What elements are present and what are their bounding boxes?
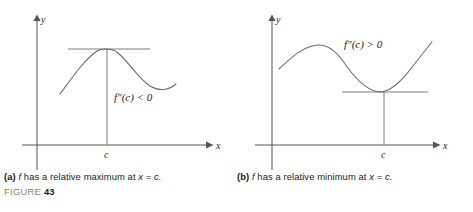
x-axis-label-b: x	[442, 140, 448, 151]
plot-b: x y c f″(c) > 0	[233, 0, 466, 170]
figure-panel-a: x y c f″(c) < 0 (a) f has a relative max…	[0, 0, 233, 212]
caption-tail-b: = c.	[374, 171, 392, 182]
annotation-second-derivative-b: f″(c) > 0	[344, 38, 383, 51]
plot-a: x y c f″(c) < 0	[0, 0, 233, 170]
y-axis-label-a: y	[40, 14, 46, 25]
figure-label-prefix: FIGURE	[4, 186, 41, 197]
y-axis-arrow-icon-a	[33, 15, 40, 22]
caption-text-a: has a relative maximum at	[21, 171, 138, 182]
x-axis-arrow-icon-b	[433, 141, 441, 148]
caption-a: (a) f has a relative maximum at x = c.	[4, 171, 230, 183]
curve-f-a	[60, 49, 176, 94]
figure-43: x y c f″(c) < 0 (a) f has a relative max…	[0, 0, 473, 212]
figure-label-number: 43	[44, 186, 54, 197]
caption-b: (b) f has a relative minimum at x = c.	[237, 171, 463, 183]
tick-label-c-b: c	[381, 149, 386, 160]
annotation-second-derivative-a: f″(c) < 0	[114, 91, 153, 104]
figure-number-label: FIGURE 43	[4, 186, 54, 198]
caption-tag-a: (a)	[4, 171, 16, 182]
caption-tag-b: (b)	[237, 171, 249, 182]
x-axis-label-a: x	[215, 140, 221, 151]
tick-label-c-a: c	[104, 149, 109, 160]
x-axis-arrow-icon-a	[206, 141, 214, 148]
caption-text-b: has a relative minimum at	[255, 171, 370, 182]
y-axis-arrow-icon-b	[268, 15, 275, 22]
caption-tail-a: = c.	[143, 171, 161, 182]
figure-panel-b: x y c f″(c) > 0 (b) f has a relative min…	[233, 0, 466, 212]
y-axis-label-b: y	[275, 14, 281, 25]
